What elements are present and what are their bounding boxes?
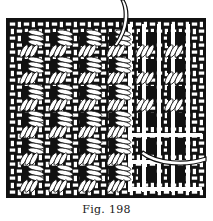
figure-caption: Fig. 198: [0, 203, 213, 216]
needlework-figure: Fig. 198: [0, 0, 213, 221]
canvas-stitch-illustration: [0, 0, 213, 221]
